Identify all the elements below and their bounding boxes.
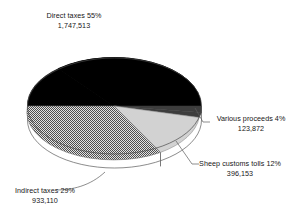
label-various-proceeds-title: Various proceeds 4% <box>217 114 286 123</box>
label-indirect-taxes-title: Indirect taxes 29% <box>15 186 75 195</box>
pie-chart-figure: Direct taxes 55% 1,747,513 Various proce… <box>0 0 292 216</box>
label-sheep-customs-tolls-value: 396,153 <box>190 169 290 179</box>
label-indirect-taxes-value: 933,110 <box>4 196 86 206</box>
label-direct-taxes: Direct taxes 55% 1,747,513 <box>30 11 118 30</box>
label-direct-taxes-value: 1,747,513 <box>30 21 118 31</box>
pie-top-face <box>27 58 202 160</box>
label-direct-taxes-title: Direct taxes 55% <box>46 11 101 20</box>
label-various-proceeds: Various proceeds 4% 123,872 <box>212 114 290 133</box>
label-sheep-customs-tolls: Sheep customs tolls 12% 396,153 <box>190 159 290 178</box>
label-indirect-taxes: Indirect taxes 29% 933,110 <box>4 186 86 205</box>
pie-chart-graphic <box>0 0 292 216</box>
label-various-proceeds-value: 123,872 <box>212 124 290 134</box>
label-sheep-customs-tolls-title: Sheep customs tolls 12% <box>199 159 281 168</box>
